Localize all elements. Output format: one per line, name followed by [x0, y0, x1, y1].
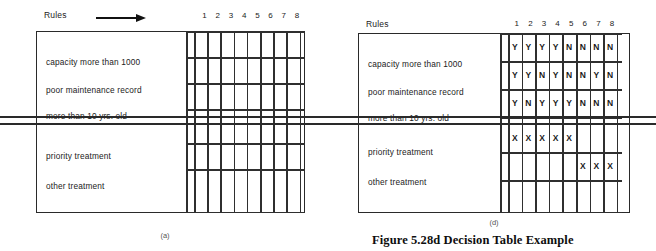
- column-header-4: 4: [238, 11, 251, 20]
- entry-cell-empty: [603, 124, 617, 152]
- grid-horizontal-line: [186, 169, 305, 171]
- column-header-6: 6: [264, 11, 277, 20]
- entry-cell-empty: [260, 116, 273, 143]
- entry-cell-n: N: [522, 89, 536, 117]
- entry-cell-empty: [194, 116, 207, 143]
- column-header-3: 3: [537, 19, 551, 28]
- entry-cell-empty: [286, 31, 299, 57]
- stub-row-label: poor maintenance record: [368, 85, 464, 99]
- entry-cell-empty: [273, 57, 286, 83]
- entry-cell-empty: [207, 116, 220, 143]
- grid-horizontal-line: [500, 180, 622, 182]
- separator-line-bottom-d: [0, 123, 656, 125]
- entry-cell-empty: [286, 83, 299, 109]
- entry-cell-y: Y: [508, 61, 522, 89]
- column-header-8: 8: [290, 11, 303, 20]
- column-header-2: 2: [211, 11, 224, 20]
- decision-table-panel-a: Rules 12345678 capacity more than 1000po…: [0, 0, 330, 251]
- entry-cell-empty: [234, 116, 247, 143]
- entry-cell-empty: [220, 83, 233, 109]
- entry-cell-empty: [194, 31, 207, 57]
- entry-cell-n: N: [590, 33, 604, 61]
- entry-cell-empty: [286, 57, 299, 83]
- entry-cell-n: N: [603, 61, 617, 89]
- entry-cell-empty: [234, 83, 247, 109]
- grid-horizontal-line: [186, 109, 305, 111]
- column-header-5: 5: [564, 19, 578, 28]
- entry-cell-x: X: [590, 152, 604, 180]
- entry-cell-empty: [273, 143, 286, 169]
- entry-cell-n: N: [535, 61, 549, 89]
- panel-sublabel-a: (a): [135, 231, 195, 240]
- entry-grid-a: [186, 31, 305, 213]
- entry-cell-empty: [260, 143, 273, 169]
- entry-cell-n: N: [603, 33, 617, 61]
- entry-cell-empty: [590, 124, 604, 152]
- entry-cell-empty: [273, 116, 286, 143]
- entry-cell-empty: [247, 143, 260, 169]
- entry-cell-n: N: [603, 89, 617, 117]
- stub-row-label: priority treatment: [46, 149, 111, 163]
- entry-cell-n: N: [576, 33, 590, 61]
- rules-label-a: Rules: [44, 10, 67, 20]
- entry-cell-empty: [207, 83, 220, 109]
- column-header-1: 1: [510, 19, 524, 28]
- entry-cell-empty: [562, 152, 576, 180]
- entry-cell-empty: [234, 31, 247, 57]
- entry-cell-n: N: [562, 61, 576, 89]
- entry-cell-empty: [207, 143, 220, 169]
- entry-cell-y: Y: [549, 33, 563, 61]
- entry-cell-n: N: [576, 61, 590, 89]
- entry-cell-y: Y: [535, 33, 549, 61]
- stub-row-label: poor maintenance record: [46, 83, 142, 97]
- entry-cell-empty: [286, 143, 299, 169]
- entry-cell-y: Y: [590, 61, 604, 89]
- entry-cell-empty: [247, 116, 260, 143]
- entry-cell-empty: [194, 83, 207, 109]
- entry-cell-empty: [260, 31, 273, 57]
- entry-cell-x: X: [549, 124, 563, 152]
- entry-cell-empty: [286, 116, 299, 143]
- entry-cell-empty: [576, 124, 590, 152]
- entry-cell-empty: [220, 31, 233, 57]
- stub-row-label: other treatment: [46, 179, 105, 193]
- stub-row-label: capacity more than 1000: [46, 55, 140, 69]
- column-header-5: 5: [251, 11, 264, 20]
- entry-cell-n: N: [590, 89, 604, 117]
- entry-cell-y: Y: [549, 89, 563, 117]
- entry-cell-y: Y: [549, 61, 563, 89]
- entry-cell-empty: [260, 57, 273, 83]
- column-header-7: 7: [592, 19, 606, 28]
- entry-cell-empty: [220, 116, 233, 143]
- entry-cell-empty: [508, 152, 522, 180]
- column-header-6: 6: [578, 19, 592, 28]
- entry-cell-y: Y: [535, 89, 549, 117]
- rules-label-d: Rules: [366, 19, 389, 29]
- entry-cell-empty: [194, 143, 207, 169]
- entry-cell-x: X: [603, 152, 617, 180]
- entry-cell-x: X: [522, 124, 536, 152]
- decision-table-panel-d: Rules 12345678 capacity more than 1000po…: [330, 0, 656, 251]
- entry-cell-x: X: [562, 124, 576, 152]
- column-header-3: 3: [224, 11, 237, 20]
- figure-caption: Figure 5.28d Decision Table Example: [372, 233, 574, 248]
- grid-horizontal-line: [186, 212, 305, 214]
- entry-cell-empty: [522, 152, 536, 180]
- entry-cell-empty: [247, 57, 260, 83]
- column-header-4: 4: [551, 19, 565, 28]
- entry-cell-empty: [260, 83, 273, 109]
- entry-cell-empty: [549, 152, 563, 180]
- entry-cell-n: N: [562, 33, 576, 61]
- entry-cell-empty: [234, 143, 247, 169]
- panel-sublabel-d: (d): [464, 218, 524, 227]
- entry-cell-n: N: [576, 89, 590, 117]
- stub-row-label: other treatment: [368, 175, 427, 189]
- stub-row-label: priority treatment: [368, 145, 433, 159]
- entry-cell-y: Y: [522, 61, 536, 89]
- entry-cell-x: X: [535, 124, 549, 152]
- right-arrow-icon-a: [96, 13, 146, 22]
- column-header-7: 7: [277, 11, 290, 20]
- entry-cell-y: Y: [522, 33, 536, 61]
- entry-cell-x: X: [508, 124, 522, 152]
- separator-line-top-d: [0, 116, 656, 118]
